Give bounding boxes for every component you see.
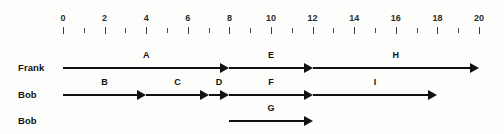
segment-label-I: I [365, 77, 385, 87]
segment-label-F: F [261, 77, 281, 87]
tick-0 [63, 27, 64, 34]
tick-2 [105, 27, 106, 34]
axis-label-0: 0 [51, 13, 75, 23]
segment-arrowhead-A [220, 63, 229, 73]
segment-arrowhead-H [470, 63, 479, 73]
segment-label-E: E [261, 50, 281, 60]
axis-label-18: 18 [425, 13, 449, 23]
tick-13 [333, 28, 334, 33]
tick-5 [167, 28, 168, 33]
segment-arrowhead-D [220, 90, 229, 100]
axis-label-2: 2 [93, 13, 117, 23]
segment-arrowhead-G [304, 116, 313, 126]
tick-20 [479, 27, 480, 34]
segment-line-F [229, 94, 305, 96]
segment-line-I [313, 94, 431, 96]
segment-label-G: G [261, 103, 281, 113]
tick-18 [437, 27, 438, 34]
axis-label-6: 6 [176, 13, 200, 23]
segment-label-C: C [167, 77, 187, 87]
row-label-1: Bob [18, 89, 37, 100]
axis-label-16: 16 [384, 13, 408, 23]
tick-1 [84, 28, 85, 33]
tick-3 [125, 28, 126, 33]
tick-17 [417, 28, 418, 33]
segment-line-B [63, 94, 139, 96]
segment-arrowhead-I [428, 90, 437, 100]
tick-11 [292, 28, 293, 33]
segment-line-A [63, 67, 222, 69]
row-label-2: Bob [18, 115, 37, 126]
segment-label-A: A [136, 50, 156, 60]
axis-label-20: 20 [467, 13, 491, 23]
segment-line-C [146, 94, 201, 96]
tick-4 [146, 27, 147, 34]
tick-19 [458, 28, 459, 33]
tick-6 [188, 27, 189, 34]
tick-12 [313, 27, 314, 34]
timeline-diagram: 02468101214161820 FrankAEHBobBCDFIBobG [0, 0, 504, 134]
axis-label-4: 4 [134, 13, 158, 23]
segment-line-H [313, 67, 472, 69]
tick-16 [396, 27, 397, 34]
segment-label-D: D [209, 77, 229, 87]
axis-label-14: 14 [342, 13, 366, 23]
segment-line-E [229, 67, 305, 69]
segment-line-G [229, 120, 305, 122]
axis-label-12: 12 [301, 13, 325, 23]
axis-label-8: 8 [217, 13, 241, 23]
tick-7 [209, 28, 210, 33]
row-label-0: Frank [18, 62, 44, 73]
tick-14 [354, 27, 355, 34]
tick-15 [375, 28, 376, 33]
segment-label-B: B [95, 77, 115, 87]
tick-10 [271, 27, 272, 34]
tick-8 [229, 27, 230, 34]
tick-9 [250, 28, 251, 33]
axis-label-10: 10 [259, 13, 283, 23]
segment-label-H: H [386, 50, 406, 60]
segment-arrowhead-B [137, 90, 146, 100]
segment-arrowhead-C [200, 90, 209, 100]
segment-arrowhead-E [304, 63, 313, 73]
segment-arrowhead-F [304, 90, 313, 100]
